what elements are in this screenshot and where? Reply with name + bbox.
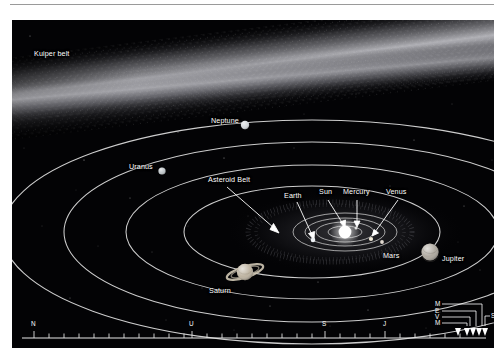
scale-letter-uranus: U (189, 321, 194, 327)
label-mars: Mars (383, 252, 399, 259)
scale-letter-saturn: S (322, 321, 326, 327)
label-mercury: Mercury (343, 188, 370, 195)
top-divider-rule (10, 4, 494, 5)
label-saturn: Saturn (209, 287, 231, 294)
scale-letter-sun: SUN (491, 313, 494, 319)
label-earth: Earth (284, 192, 302, 199)
body-mars (380, 240, 384, 244)
solar-system-diagram-panel: Kuiper belt Neptune Uranus Asteroid Belt… (12, 20, 494, 348)
body-neptune (241, 121, 249, 129)
scale-letter-jupiter: J (383, 321, 386, 327)
body-sun (330, 217, 360, 247)
diagram-canvas (12, 20, 494, 348)
label-venus: Venus (386, 188, 406, 195)
body-venus (369, 237, 373, 241)
label-asteroid-belt: Asteroid Belt (208, 176, 250, 183)
label-sun: Sun (319, 188, 332, 195)
figure-page: Kuiper belt Neptune Uranus Asteroid Belt… (0, 0, 503, 361)
label-kuiper-belt: Kuiper belt (34, 50, 69, 57)
scale-letter-mercury: M (435, 320, 440, 326)
body-earth (311, 238, 316, 243)
label-uranus: Uranus (129, 163, 153, 170)
body-uranus (158, 167, 165, 174)
label-neptune: Neptune (211, 117, 239, 124)
body-mercury (355, 227, 358, 230)
scale-letter-neptune: N (31, 321, 36, 327)
label-jupiter: Jupiter (442, 255, 464, 262)
